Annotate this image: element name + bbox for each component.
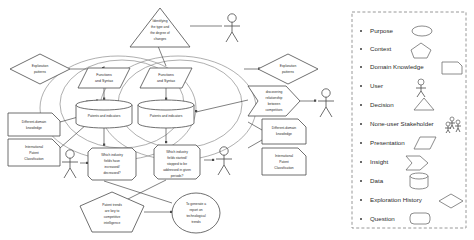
svg-text:changes: changes — [154, 37, 167, 41]
svg-text:Functions: Functions — [158, 73, 174, 77]
node-data-left[interactable]: Patents and indicators — [76, 100, 132, 128]
svg-text:and Syntax: and Syntax — [95, 79, 113, 83]
svg-text:knowledge: knowledge — [26, 126, 42, 130]
svg-text:Patent: Patent — [29, 151, 39, 155]
svg-text:periods?: periods? — [171, 174, 184, 178]
svg-text:Different-domain: Different-domain — [22, 120, 46, 124]
node-presentation-left[interactable]: Functions and Syntax — [78, 68, 130, 88]
node-data-right[interactable]: Patents and indicators — [138, 100, 194, 128]
svg-text:the degree of: the degree of — [150, 31, 170, 35]
legend-label-domain-knowledge: Domain Knowledge — [370, 63, 424, 70]
diagram-svg: Identifying the type and the degree of c… — [0, 0, 474, 240]
svg-text:knowledge: knowledge — [276, 132, 292, 136]
legend-label-context: Context — [370, 45, 392, 52]
diamond-icon — [439, 194, 463, 208]
svg-text:patterns: patterns — [282, 70, 294, 74]
svg-text:Different-domain: Different-domain — [272, 126, 296, 130]
legend-bullet — [360, 85, 362, 87]
svg-text:increased/: increased/ — [104, 165, 119, 169]
arrow-pentagon-icon — [406, 156, 428, 170]
group-figures-icon — [445, 117, 461, 133]
node-presentation-right[interactable]: Functions and Syntax — [140, 68, 192, 88]
svg-text:trends: trends — [191, 220, 201, 224]
legend-bullet — [360, 104, 362, 106]
legend-label-decision: Decision — [370, 101, 394, 108]
svg-text:stopped to be: stopped to be — [167, 162, 187, 166]
svg-text:Exploration: Exploration — [280, 64, 297, 68]
actor-right[interactable] — [318, 89, 334, 117]
svg-text:between: between — [268, 102, 281, 106]
legend-label-user: User — [370, 82, 383, 89]
legend-bullet — [360, 48, 362, 50]
svg-text:intelligence: intelligence — [104, 221, 121, 225]
legend-bullet — [360, 180, 362, 182]
svg-text:fields started/: fields started/ — [167, 156, 187, 160]
legend-panel: Purpose Context Domain Knowledge User De… — [352, 12, 466, 228]
svg-text:addressed in given: addressed in given — [163, 168, 191, 172]
pentagon-icon — [411, 43, 431, 58]
node-question-left[interactable]: Which industry fields have increased/ de… — [88, 148, 136, 180]
node-question-right[interactable]: Which industry fields started/ stopped t… — [154, 145, 200, 179]
svg-text:Classification: Classification — [24, 157, 44, 161]
svg-text:and Syntax: and Syntax — [157, 79, 175, 83]
svg-text:competitive: competitive — [104, 215, 121, 219]
actor-center-lower[interactable] — [216, 147, 232, 175]
svg-text:relationship: relationship — [266, 96, 283, 100]
svg-text:Functions: Functions — [96, 73, 112, 77]
svg-text:Exploration: Exploration — [32, 64, 49, 68]
node-ipc-left[interactable]: International Patent Classification — [8, 139, 60, 166]
svg-text:patterns: patterns — [34, 70, 46, 74]
legend-bullet — [360, 123, 362, 125]
legend-label-none-user-stakeholder: None-user Stakeholder — [370, 120, 434, 127]
node-ipc-right[interactable]: International Patent Classification — [262, 148, 306, 175]
svg-text:International: International — [25, 145, 43, 149]
node-domain-knowledge-left[interactable]: Different-domain knowledge — [8, 113, 60, 136]
triangle-icon — [414, 98, 434, 110]
svg-text:competitors: competitors — [265, 108, 282, 112]
stick-figure-icon — [416, 79, 426, 97]
legend-bullet — [360, 30, 362, 32]
svg-text:the type and: the type and — [151, 25, 169, 29]
svg-text:International: International — [275, 154, 293, 158]
node-domain-knowledge-right[interactable]: Different-domain knowledge — [262, 119, 306, 144]
legend-label-purpose: Purpose — [370, 27, 394, 34]
svg-text:Patent trends: Patent trends — [102, 203, 122, 207]
node-exploration-patterns-left[interactable]: Exploration patterns — [10, 54, 70, 84]
legend-label-data: Data — [370, 177, 384, 184]
legend-label-exploration-history: Exploration History — [370, 196, 423, 203]
legend-bullet — [360, 218, 362, 220]
parallelogram-icon — [414, 137, 436, 149]
legend-label-presentation: Presentation — [370, 139, 405, 146]
legend-bullet — [360, 142, 362, 144]
svg-text:To generate a: To generate a — [186, 202, 206, 206]
diagram-canvas: Identifying the type and the degree of c… — [0, 0, 474, 240]
svg-text:Patent: Patent — [279, 160, 289, 164]
legend-bullet — [360, 199, 362, 201]
cylinder-icon — [410, 173, 428, 189]
legend-bullet — [360, 161, 362, 163]
legend-bullet — [360, 66, 362, 68]
node-purpose-bottom[interactable]: To generate a report on technological tr… — [172, 193, 220, 233]
svg-text:report on: report on — [189, 208, 202, 212]
svg-text:Which industry: Which industry — [166, 150, 188, 154]
actor-top-right[interactable] — [224, 14, 240, 42]
legend-label-question: Question — [370, 215, 395, 222]
svg-text:are key to: are key to — [105, 209, 120, 213]
svg-text:Patents and indicators: Patents and indicators — [88, 114, 121, 118]
node-context-bottom[interactable]: Patent trends are key to competitive int… — [80, 192, 144, 232]
svg-text:Classification: Classification — [274, 166, 294, 170]
svg-text:fields have: fields have — [104, 159, 120, 163]
legend-label-insight: Insight — [370, 158, 389, 165]
svg-text:Identifying: Identifying — [152, 19, 167, 23]
rounded-rect-icon — [410, 213, 430, 224]
svg-text:decreased?: decreased? — [103, 171, 120, 175]
node-decision-top[interactable]: Identifying the type and the degree of c… — [130, 8, 190, 47]
actor-left-lower[interactable] — [62, 150, 78, 178]
node-insight-right[interactable]: discovering relationship between competi… — [248, 86, 300, 116]
svg-text:Which industry: Which industry — [101, 153, 123, 157]
node-exploration-patterns-right[interactable]: Exploration patterns — [258, 54, 318, 84]
note-rect-icon — [442, 62, 462, 74]
svg-text:technological: technological — [186, 214, 206, 218]
svg-text:Patents and indicators: Patents and indicators — [150, 114, 183, 118]
ellipse-icon — [412, 26, 432, 36]
